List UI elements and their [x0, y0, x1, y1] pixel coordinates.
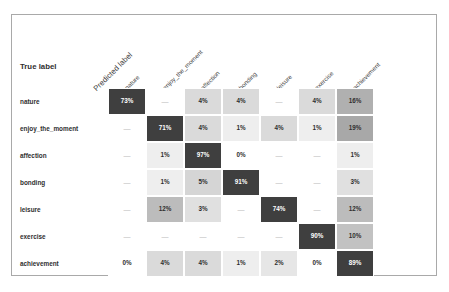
- cell-value: 5%: [198, 179, 207, 185]
- cell-enjoy_the_moment-leisure: 4%: [260, 115, 298, 142]
- cell-achievement-enjoy_the_moment: 4%: [146, 250, 184, 277]
- cell-bonding-nature: —: [108, 169, 146, 196]
- y-tick-label-bonding: bonding: [20, 169, 45, 196]
- y-tick-label-affection: affection: [20, 142, 47, 169]
- cell-value: 4%: [198, 260, 207, 266]
- cell-value: 1%: [160, 179, 169, 185]
- cell-value: —: [238, 233, 245, 240]
- cell-exercise-nature: —: [108, 223, 146, 250]
- cell-value: 89%: [349, 260, 362, 266]
- cell-value: —: [124, 152, 131, 159]
- cell-nature-affection: 4%: [184, 88, 222, 115]
- cell-value: 1%: [350, 152, 359, 158]
- cell-bonding-bonding: 91%: [222, 169, 260, 196]
- cell-leisure-nature: —: [108, 196, 146, 223]
- cell-value: —: [276, 152, 283, 159]
- y-tick-label-leisure: leisure: [20, 196, 41, 223]
- cell-leisure-enjoy_the_moment: 12%: [146, 196, 184, 223]
- cell-value: —: [162, 233, 169, 240]
- cell-value: 4%: [198, 98, 207, 104]
- cell-enjoy_the_moment-bonding: 1%: [222, 115, 260, 142]
- cell-affection-bonding: 0%: [222, 142, 260, 169]
- cell-bonding-exercise: —: [298, 169, 336, 196]
- cell-value: —: [124, 233, 131, 240]
- cell-exercise-affection: —: [184, 223, 222, 250]
- cell-value: —: [314, 152, 321, 159]
- cell-leisure-achievement: 12%: [336, 196, 374, 223]
- y-axis-title: True label: [20, 62, 56, 71]
- cell-achievement-leisure: 2%: [260, 250, 298, 277]
- y-tick-label-achievement: achievement: [20, 250, 59, 277]
- cell-affection-exercise: —: [298, 142, 336, 169]
- cell-enjoy_the_moment-achievement: 19%: [336, 115, 374, 142]
- x-tick-label-enjoy_the_moment: enjoy_the_moment: [161, 48, 204, 91]
- cell-affection-affection: 97%: [184, 142, 222, 169]
- y-tick-label-nature: nature: [20, 88, 40, 115]
- cell-value: 1%: [160, 152, 169, 158]
- confusion-matrix: True label Predicted labelnatureenjoy_th…: [0, 0, 449, 292]
- cell-achievement-nature: 0%: [108, 250, 146, 277]
- cell-nature-bonding: 4%: [222, 88, 260, 115]
- cell-value: 1%: [236, 125, 245, 131]
- cell-value: 3%: [350, 179, 359, 185]
- cell-bonding-enjoy_the_moment: 1%: [146, 169, 184, 196]
- cell-value: 19%: [349, 125, 362, 131]
- cell-value: 16%: [349, 98, 362, 104]
- cell-bonding-affection: 5%: [184, 169, 222, 196]
- cell-enjoy_the_moment-nature: —: [108, 115, 146, 142]
- cell-exercise-exercise: 90%: [298, 223, 336, 250]
- cell-value: —: [124, 206, 131, 213]
- cell-value: 73%: [121, 98, 134, 104]
- cell-value: —: [124, 125, 131, 132]
- cell-nature-leisure: —: [260, 88, 298, 115]
- cell-value: 91%: [235, 179, 248, 185]
- cell-enjoy_the_moment-affection: 4%: [184, 115, 222, 142]
- cell-value: 0%: [236, 152, 245, 158]
- cell-exercise-leisure: —: [260, 223, 298, 250]
- cell-value: —: [238, 206, 245, 213]
- cell-exercise-achievement: 10%: [336, 223, 374, 250]
- cell-achievement-bonding: 1%: [222, 250, 260, 277]
- cell-value: —: [314, 179, 321, 186]
- cell-value: 71%: [159, 125, 172, 131]
- cell-value: 3%: [198, 206, 207, 212]
- cell-affection-achievement: 1%: [336, 142, 374, 169]
- cell-bonding-leisure: —: [260, 169, 298, 196]
- cell-enjoy_the_moment-exercise: 1%: [298, 115, 336, 142]
- x-tick-label-achievement: achievement: [351, 61, 381, 91]
- cell-value: 0%: [122, 260, 131, 266]
- cell-value: 12%: [349, 206, 362, 212]
- cell-achievement-achievement: 89%: [336, 250, 374, 277]
- cell-value: 74%: [273, 206, 286, 212]
- cell-value: 4%: [312, 98, 321, 104]
- cell-value: 97%: [197, 152, 210, 158]
- cell-nature-achievement: 16%: [336, 88, 374, 115]
- cell-affection-enjoy_the_moment: 1%: [146, 142, 184, 169]
- cell-enjoy_the_moment-enjoy_the_moment: 71%: [146, 115, 184, 142]
- cell-value: 2%: [274, 260, 283, 266]
- cell-value: —: [124, 179, 131, 186]
- cell-nature-nature: 73%: [108, 88, 146, 115]
- cell-leisure-bonding: —: [222, 196, 260, 223]
- cell-nature-exercise: 4%: [298, 88, 336, 115]
- cell-value: —: [276, 98, 283, 105]
- cell-exercise-enjoy_the_moment: —: [146, 223, 184, 250]
- cell-value: 1%: [236, 260, 245, 266]
- cell-value: 10%: [349, 233, 362, 239]
- cell-leisure-exercise: —: [298, 196, 336, 223]
- cell-value: —: [276, 179, 283, 186]
- cell-value: 4%: [274, 125, 283, 131]
- cell-value: 12%: [159, 206, 172, 212]
- cell-value: —: [276, 233, 283, 240]
- y-tick-label-exercise: exercise: [20, 223, 46, 250]
- cell-value: —: [162, 98, 169, 105]
- cell-value: 4%: [160, 260, 169, 266]
- cell-value: 4%: [236, 98, 245, 104]
- cell-value: 90%: [311, 233, 324, 239]
- cell-value: —: [314, 206, 321, 213]
- cell-value: —: [200, 233, 207, 240]
- cell-nature-enjoy_the_moment: —: [146, 88, 184, 115]
- cell-leisure-leisure: 74%: [260, 196, 298, 223]
- cell-value: 4%: [198, 125, 207, 131]
- cell-affection-nature: —: [108, 142, 146, 169]
